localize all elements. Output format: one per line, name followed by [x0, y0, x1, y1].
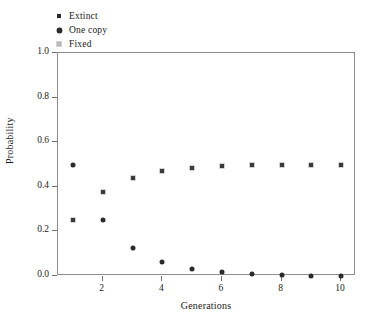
square-light-icon — [54, 41, 64, 47]
x-tick-label: 8 — [278, 284, 283, 294]
data-point-layer — [58, 53, 354, 274]
plot-area — [57, 52, 355, 275]
data-point — [101, 190, 105, 194]
legend-item-extinct: Extinct — [54, 10, 107, 22]
y-tick-label: 0.4 — [37, 181, 49, 191]
data-point — [131, 176, 135, 180]
y-tick-label: 0.6 — [37, 136, 49, 146]
diamond-filled-icon — [54, 28, 64, 33]
data-point — [160, 260, 165, 265]
x-tick-label: 10 — [335, 284, 345, 294]
x-tick-label: 2 — [99, 284, 104, 294]
data-point — [220, 164, 224, 168]
legend-label-fixed: Fixed — [69, 39, 92, 50]
data-point — [339, 163, 343, 167]
data-point — [309, 163, 313, 167]
legend-label-one-copy: One copy — [69, 25, 107, 36]
data-point — [100, 218, 105, 223]
legend-item-fixed: Fixed — [54, 38, 107, 50]
x-axis: 246810 — [57, 276, 355, 296]
x-tick-label: 6 — [219, 284, 224, 294]
data-point — [71, 218, 75, 222]
x-axis-title: Generations — [57, 300, 355, 311]
legend-label-extinct: Extinct — [69, 11, 98, 22]
data-point — [190, 267, 195, 272]
y-tick-label: 0.0 — [37, 270, 49, 280]
scatter-chart-figure: Extinct One copy Fixed 0.00.20.40.60.81.… — [0, 0, 371, 328]
y-axis-title: Probability — [4, 117, 15, 164]
data-point — [279, 273, 284, 278]
square-filled-icon — [54, 14, 64, 18]
data-point — [309, 273, 314, 278]
chart-legend: Extinct One copy Fixed — [54, 10, 107, 52]
data-point — [160, 169, 164, 173]
data-point — [190, 166, 194, 170]
y-tick-label: 1.0 — [37, 47, 49, 57]
y-axis: 0.00.20.40.60.81.0 — [0, 52, 57, 276]
x-tick-mark — [161, 276, 162, 281]
data-point — [219, 270, 224, 275]
data-point — [339, 273, 344, 278]
x-tick-mark — [102, 276, 103, 281]
x-tick-mark — [221, 276, 222, 281]
legend-item-one-copy: One copy — [54, 24, 107, 36]
data-point — [249, 272, 254, 277]
data-point — [130, 246, 135, 251]
x-tick-label: 4 — [159, 284, 164, 294]
data-point — [280, 163, 284, 167]
y-tick-label: 0.8 — [37, 92, 49, 102]
y-tick-label: 0.2 — [37, 226, 49, 236]
data-point — [70, 162, 75, 167]
data-point — [250, 163, 254, 167]
